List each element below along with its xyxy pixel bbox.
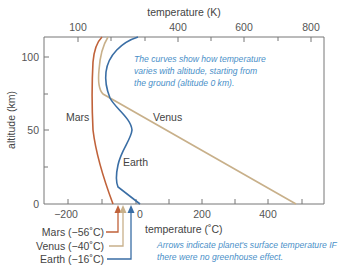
top-axis-title: temperature (K) — [147, 6, 221, 18]
curves-note: The curves show how temperature varies w… — [134, 54, 266, 88]
bottom-tick-200: 200 — [193, 208, 211, 220]
arrow-up-icon — [120, 205, 127, 213]
y-axis-labels: 100 50 0 altitude (km) — [5, 51, 39, 210]
top-tick-100: 100 — [69, 21, 87, 33]
y-tick-0: 0 — [33, 198, 39, 210]
top-tick-600: 600 — [235, 21, 253, 33]
y-tick-100: 100 — [21, 51, 39, 63]
mars-arrow-label: Mars (−56˚C) — [42, 226, 104, 238]
top-axis-ticks — [78, 37, 311, 42]
y-tick-50: 50 — [27, 124, 39, 136]
mars-arrow — [106, 205, 122, 232]
mars-label: Mars — [66, 111, 89, 123]
earth-label: Earth — [123, 156, 148, 168]
y-axis-title: altitude (km) — [5, 91, 17, 149]
svg-text:The curves show how temperatur: The curves show how temperature — [134, 54, 266, 64]
mars-curve — [92, 37, 113, 204]
top-axis-labels: 100 400 600 800 temperature (K) — [69, 6, 320, 33]
svg-text:varies with altitude, starting: varies with altitude, starting from — [134, 66, 257, 76]
top-tick-800: 800 — [302, 21, 320, 33]
bottom-axis-ticks — [68, 199, 302, 204]
svg-text:Arrows indicate planet's surfa: Arrows indicate planet's surface tempera… — [156, 240, 338, 250]
bottom-tick-minus200: −200 — [54, 208, 78, 220]
temperature-altitude-chart: 100 400 600 800 temperature (K) −200 0 2… — [0, 0, 340, 275]
arrows-note: Arrows indicate planet's surface tempera… — [156, 240, 338, 262]
bottom-axis-title: temperature (˚C) — [145, 223, 223, 235]
venus-arrow-label: Venus (−40˚C) — [36, 240, 104, 252]
y-axis-ticks — [44, 57, 49, 167]
arrow-up-icon — [128, 205, 135, 213]
venus-label: Venus — [153, 111, 182, 123]
svg-text:the ground (altitude 0 km).: the ground (altitude 0 km). — [134, 78, 234, 88]
bottom-tick-400: 400 — [259, 208, 277, 220]
earth-arrow-label: Earth (−16˚C) — [40, 253, 104, 265]
top-tick-400: 400 — [169, 21, 187, 33]
bottom-tick-0: 0 — [137, 208, 143, 220]
svg-text:there were no greenhouse effec: there were no greenhouse effect. — [157, 252, 283, 262]
